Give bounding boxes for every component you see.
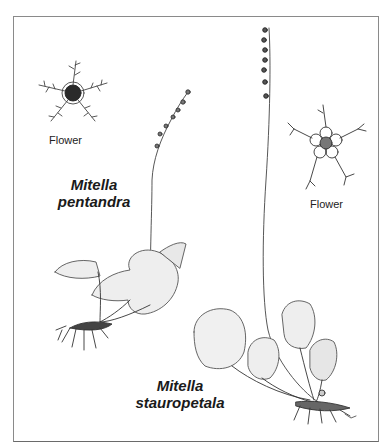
flower-detail-pentandra [39,61,107,121]
genus-name: Mitella [44,176,144,193]
species-name-stauropetala: Mitella stauropetala [120,377,240,411]
flower-label-stauropetala: Flower [310,198,343,210]
flower-detail-stauropetala [288,105,366,189]
plant-stauropetala [194,28,356,424]
flower-label-pentandra: Flower [49,134,82,146]
species-name-pentandra: Mitella pentandra [44,176,144,210]
plant-pentandra [55,90,190,350]
species-epithet: stauropetala [120,394,240,411]
genus-name: Mitella [120,377,240,394]
species-epithet: pentandra [44,193,144,210]
